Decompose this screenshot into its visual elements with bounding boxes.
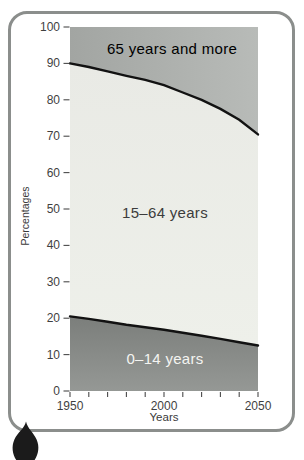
spade-pointer-icon [13,422,39,460]
area-bands [70,27,258,391]
stacked-area-chart [0,0,304,460]
